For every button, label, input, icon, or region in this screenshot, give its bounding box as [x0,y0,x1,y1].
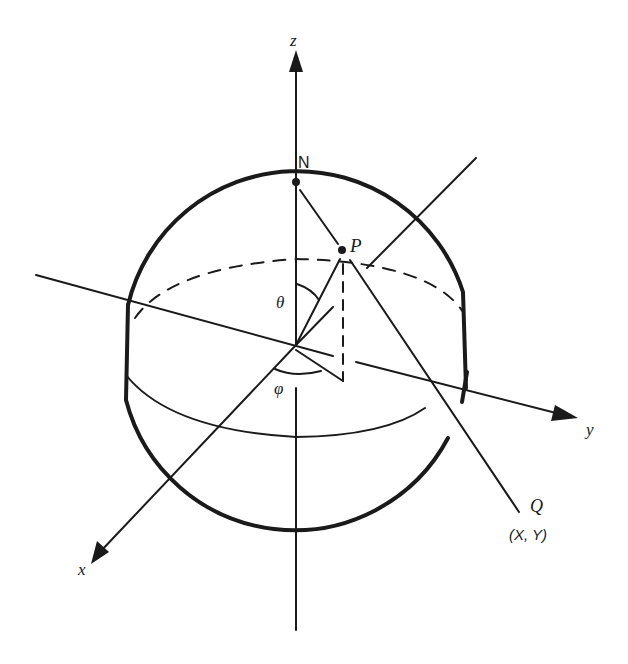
phi-arc [275,369,321,374]
point-q-label: Q [530,497,543,515]
radius-op [296,259,340,345]
line-n-to-p [300,190,338,244]
theta-label: θ [276,294,284,311]
phi-label: φ [274,380,283,397]
sphere-outline-lower [126,305,448,530]
point-p-label: P [350,236,362,255]
helper-line [296,307,333,345]
point-n [292,178,300,186]
equator-back-dashed [135,259,463,318]
q-coords-label: (X, Y) [509,527,547,542]
z-axis-label: z [290,32,297,49]
y-axis-front [356,362,560,414]
z-axis-arrowhead [289,50,303,72]
sphere-diagram [0,0,628,664]
sphere-outline-right-fragment [462,372,467,402]
x-axis-label: x [78,561,86,578]
projection-plane-line [367,158,476,268]
y-axis-back [36,275,333,356]
y-axis-label: y [586,421,594,438]
theta-arc [297,284,319,300]
line-p-to-q [350,260,519,512]
point-p [338,246,346,254]
x-axis [100,345,296,552]
y-axis-arrowhead [551,405,578,421]
radius-projection [296,350,343,381]
north-pole-label: N [298,155,310,171]
